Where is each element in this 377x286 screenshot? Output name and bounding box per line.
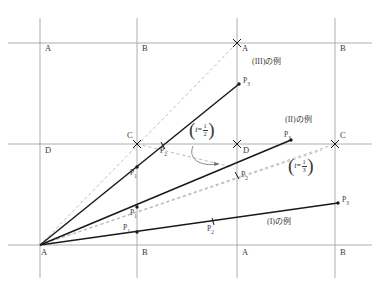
point-label-iii-p1: P1 <box>130 169 137 179</box>
lattice-label-a-bottom-right: A <box>242 248 248 257</box>
grid-lines <box>8 18 372 278</box>
dot-i-p3 <box>336 201 339 204</box>
paren-close: ) <box>208 119 214 140</box>
lattice-label-c-mid-left: C <box>127 131 133 140</box>
dot-i-p1 <box>135 230 138 233</box>
figure-canvas: A B A B D C D C A B A B P1 P2 P3 P1 P2 P… <box>0 0 377 286</box>
point-label-i-p3: P3 <box>342 196 349 206</box>
point-label-sub: 2 <box>245 175 248 181</box>
lattice-label-d-mid-right: D <box>243 146 249 155</box>
point-label-iii-p2: P2 <box>160 147 167 157</box>
lattice-label-d-mid-left: D <box>45 146 51 155</box>
point-label-sub: 3 <box>288 135 291 141</box>
point-label-sub: 1 <box>134 213 137 219</box>
point-label-i-p2: P2 <box>207 225 214 235</box>
point-label-sub: 2 <box>164 151 167 157</box>
callout-arrow-head <box>214 162 219 166</box>
tick-markers <box>161 142 239 225</box>
annotation-t-half: (t=12) <box>189 123 215 138</box>
point-label-sub: 1 <box>127 228 130 234</box>
dashed-ray-mid <box>40 150 322 245</box>
lattice-label-c-mid-far: C <box>340 131 346 140</box>
tick-i-p2 <box>212 218 214 225</box>
callout-arrow-curve <box>192 146 219 165</box>
cross-markers <box>133 39 339 148</box>
dot-iii-p3 <box>237 82 240 85</box>
lattice-label-b-bottom-mid: B <box>142 248 148 257</box>
point-label-iii-p3: P3 <box>243 77 250 87</box>
lattice-label-a-top-right: A <box>242 44 248 53</box>
case-label-iii: (III)の例 <box>252 58 281 66</box>
point-label-sub: 3 <box>346 200 349 206</box>
annotation-relation: = <box>198 125 203 134</box>
lattice-label-b-top-mid: B <box>142 44 148 53</box>
callout-arrow-t-half <box>192 146 219 166</box>
case-label-i: (I)の例 <box>267 218 291 226</box>
point-label-sub: 1 <box>134 173 137 179</box>
case-label-ii: (II)の例 <box>285 116 312 124</box>
point-label-i-p1: P1 <box>123 224 130 234</box>
point-label-sub: 2 <box>211 229 214 235</box>
point-label-ii-p1: P1 <box>130 209 137 219</box>
point-label-sub: 3 <box>247 81 250 87</box>
lattice-label-b-top-far: B <box>340 44 346 53</box>
lattice-label-a-top-left: A <box>45 44 51 53</box>
annotation-t-third: (t=13) <box>288 159 314 174</box>
figure-vector-layer <box>0 0 377 286</box>
lattice-label-a-bottom-left: A <box>41 248 47 257</box>
point-label-ii-p3: P3 <box>284 131 291 141</box>
annotation-relation: = <box>297 161 302 170</box>
paren-close: ) <box>307 155 313 176</box>
lattice-label-b-bottom-far: B <box>340 248 346 257</box>
point-label-ii-p2: P2 <box>241 171 248 181</box>
